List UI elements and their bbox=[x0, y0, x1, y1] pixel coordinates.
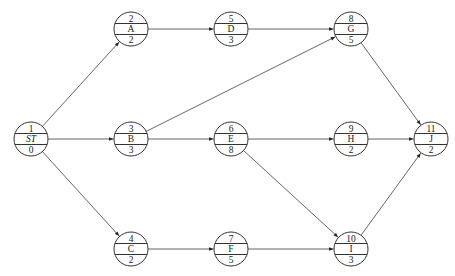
node-duration: 3 bbox=[129, 145, 134, 155]
node-9: 9H2 bbox=[334, 122, 368, 156]
node-4: 4C2 bbox=[114, 232, 148, 266]
node-activity-label: ST bbox=[26, 134, 37, 144]
edge-10-to-11 bbox=[361, 153, 421, 235]
node-number: 11 bbox=[426, 124, 435, 134]
node-10: 10I3 bbox=[334, 232, 368, 266]
node-duration: 0 bbox=[29, 145, 34, 155]
node-1: 1ST0 bbox=[14, 122, 48, 156]
node-number: 2 bbox=[129, 14, 134, 24]
node-2: 2A2 bbox=[114, 12, 148, 46]
edge-6-to-10 bbox=[244, 151, 339, 238]
node-activity-label: G bbox=[348, 24, 355, 34]
node-8: 8G5 bbox=[334, 12, 368, 46]
node-activity-label: F bbox=[228, 244, 233, 254]
node-activity-label: D bbox=[228, 24, 235, 34]
node-6: 6E8 bbox=[214, 122, 248, 156]
node-7: 7F5 bbox=[214, 232, 248, 266]
node-activity-label: B bbox=[128, 134, 134, 144]
network-diagram: 1ST02A23B34C25D36E87F58G59H210I311J2 bbox=[0, 0, 455, 276]
node-number: 10 bbox=[346, 234, 356, 244]
node-5: 5D3 bbox=[214, 12, 248, 46]
node-activity-label: C bbox=[128, 244, 134, 254]
node-duration: 2 bbox=[349, 145, 354, 155]
node-duration: 2 bbox=[129, 255, 134, 265]
node-duration: 2 bbox=[429, 145, 434, 155]
node-11: 11J2 bbox=[414, 122, 448, 156]
node-duration: 3 bbox=[349, 255, 354, 265]
node-duration: 5 bbox=[229, 255, 234, 265]
network-diagram-canvas: 1ST02A23B34C25D36E87F58G59H210I311J2 bbox=[0, 0, 455, 276]
node-duration: 3 bbox=[229, 35, 234, 45]
node-activity-label: H bbox=[348, 134, 355, 144]
node-duration: 8 bbox=[229, 145, 234, 155]
node-number: 6 bbox=[229, 124, 234, 134]
edge-1-to-2 bbox=[42, 42, 119, 127]
node-number: 8 bbox=[349, 14, 354, 24]
node-number: 1 bbox=[29, 124, 34, 134]
node-number: 4 bbox=[129, 234, 134, 244]
node-number: 9 bbox=[349, 124, 354, 134]
node-activity-label: J bbox=[429, 134, 433, 144]
node-3: 3B3 bbox=[114, 122, 148, 156]
node-number: 7 bbox=[229, 234, 234, 244]
node-number: 3 bbox=[129, 124, 134, 134]
edge-1-to-4 bbox=[42, 152, 119, 237]
edge-8-to-11 bbox=[361, 43, 421, 125]
node-activity-label: A bbox=[128, 24, 135, 34]
node-duration: 2 bbox=[129, 35, 134, 45]
node-number: 5 bbox=[229, 14, 234, 24]
node-activity-label: I bbox=[349, 244, 352, 254]
node-activity-label: E bbox=[228, 134, 234, 144]
edge-3-to-8 bbox=[146, 37, 335, 132]
node-duration: 5 bbox=[349, 35, 354, 45]
